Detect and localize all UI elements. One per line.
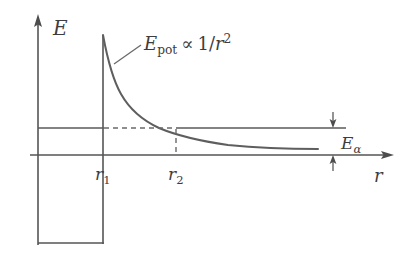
diagram-canvas: E r r1 r2 Epot∝1/r2 Eα bbox=[0, 0, 410, 260]
energy-level-label-base: E bbox=[340, 133, 354, 153]
x-axis bbox=[30, 151, 394, 159]
energy-level-label: Eα bbox=[340, 133, 361, 156]
curve-label: Epot∝1/r2 bbox=[143, 32, 231, 57]
potential-energy-diagram: E r r1 r2 Epot∝1/r2 Eα bbox=[0, 0, 410, 260]
energy-gap-indicator bbox=[330, 112, 337, 171]
curve-label-numerator: 1 bbox=[197, 33, 208, 54]
x-axis-label: r bbox=[374, 165, 384, 186]
y-axis bbox=[34, 14, 42, 245]
curve-label-exponent: 2 bbox=[224, 32, 232, 46]
curve-label-sub: pot bbox=[157, 43, 177, 57]
curve-label-relation: ∝ bbox=[181, 33, 193, 54]
energy-level-label-sub: α bbox=[353, 142, 361, 156]
tick-label-r1: r1 bbox=[95, 164, 111, 187]
y-axis-label: E bbox=[52, 16, 68, 40]
tick-label-r2-sub: 2 bbox=[176, 173, 183, 187]
curve-label-leader-line bbox=[114, 45, 141, 64]
tick-label-r2: r2 bbox=[168, 164, 184, 187]
tick-label-r1-sub: 1 bbox=[103, 173, 110, 187]
potential-curve bbox=[38, 35, 318, 244]
curve-label-base: E bbox=[143, 33, 157, 54]
